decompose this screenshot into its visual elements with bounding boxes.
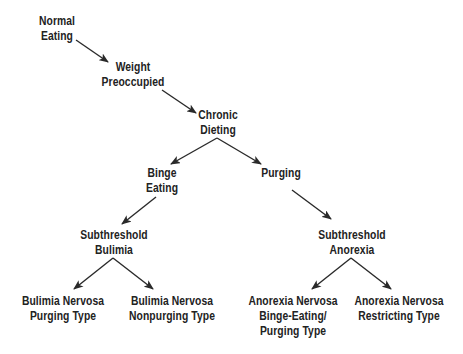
eating-disorder-progression-diagram: NormalEatingWeightPreoccupiedChronicDiet… — [0, 0, 463, 354]
node-label-line: Binge-Eating/ — [248, 309, 337, 324]
arrow-binge-eating-to-subthreshold-bulimia — [122, 197, 156, 224]
node-bulimia-nervosa-purging: Bulimia NervosaPurging Type — [15, 294, 111, 324]
arrow-chronic-dieting-to-binge-eating — [171, 138, 217, 164]
arrow-normal-eating-to-weight-preoccupied — [76, 40, 108, 62]
node-label-line: Bulimia — [80, 243, 148, 258]
node-label-line: Purging — [261, 166, 301, 181]
arrow-chronic-dieting-to-purging — [217, 138, 261, 164]
node-purging: Purging — [258, 166, 304, 181]
node-subthreshold-bulimia: SubthresholdBulimia — [75, 228, 154, 258]
node-label-line: Preoccupied — [102, 75, 165, 90]
node-label-line: Purging Type — [248, 324, 337, 339]
node-label-line: Normal — [39, 14, 75, 29]
node-chronic-dieting: ChronicDieting — [195, 108, 241, 138]
node-label-line: Bulimia Nervosa — [22, 294, 104, 309]
node-label-line: Subthreshold — [80, 228, 148, 243]
node-label-line: Nonpurging Type — [129, 309, 215, 324]
node-normal-eating: NormalEating — [36, 14, 78, 44]
node-label-line: Dieting — [198, 123, 238, 138]
arrow-subthreshold-bulimia-to-bulimia-nervosa-purging — [74, 258, 113, 289]
arrow-weight-preoccupied-to-chronic-dieting — [162, 90, 196, 113]
node-anorexia-nervosa-binge-purging: Anorexia NervosaBinge-Eating/Purging Typ… — [241, 294, 345, 339]
node-label-line: Anorexia — [318, 243, 386, 258]
node-bulimia-nervosa-nonpurging: Bulimia NervosaNonpurging Type — [122, 294, 222, 324]
node-anorexia-nervosa-restricting: Anorexia NervosaRestricting Type — [347, 294, 451, 324]
node-label-line: Eating — [39, 29, 75, 44]
node-label-line: Restricting Type — [354, 309, 443, 324]
node-subthreshold-anorexia: SubthresholdAnorexia — [313, 228, 392, 258]
node-label-line: Anorexia Nervosa — [354, 294, 443, 309]
node-label-line: Eating — [146, 181, 178, 196]
node-label-line: Weight — [102, 60, 165, 75]
node-weight-preoccupied: WeightPreoccupied — [96, 60, 169, 90]
arrow-subthreshold-anorexia-to-anorexia-nervosa-restricting — [351, 258, 391, 289]
node-binge-eating: BingeEating — [143, 166, 180, 196]
node-label-line: Binge — [146, 166, 178, 181]
arrow-subthreshold-bulimia-to-bulimia-nervosa-nonpurging — [113, 258, 153, 289]
node-label-line: Subthreshold — [318, 228, 386, 243]
node-label-line: Purging Type — [22, 309, 104, 324]
arrow-subthreshold-anorexia-to-anorexia-nervosa-binge-purging — [312, 258, 351, 289]
node-label-line: Anorexia Nervosa — [248, 294, 337, 309]
node-label-line: Chronic — [198, 108, 238, 123]
node-label-line: Bulimia Nervosa — [129, 294, 215, 309]
arrow-purging-to-subthreshold-anorexia — [292, 190, 331, 219]
